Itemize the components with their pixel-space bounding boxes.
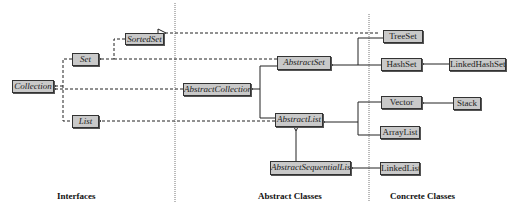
connector-lines bbox=[0, 0, 516, 212]
node-abstractcollection: AbstractCollection bbox=[183, 83, 251, 96]
node-linkedhashset: LinkedHashSet bbox=[449, 58, 506, 71]
node-abstractsequentiallist: AbstractSequentialList bbox=[270, 161, 351, 175]
node-linkedlist: LinkedList bbox=[380, 162, 420, 175]
node-set: Set bbox=[72, 53, 99, 66]
node-sortedset: SortedSet bbox=[125, 33, 164, 45]
node-arraylist: ArrayList bbox=[380, 126, 420, 139]
node-abstractset: AbstractSet bbox=[277, 56, 331, 70]
node-vector: Vector bbox=[381, 96, 422, 109]
label-interfaces: Interfaces bbox=[57, 191, 95, 201]
node-treeset: TreeSet bbox=[383, 30, 423, 43]
collection-hierarchy-diagram: Collection Set SortedSet List AbstractCo… bbox=[0, 0, 516, 212]
node-list: List bbox=[72, 115, 99, 128]
node-hashset: HashSet bbox=[381, 58, 422, 71]
node-stack: Stack bbox=[453, 97, 481, 110]
label-abstract-classes: Abstract Classes bbox=[258, 191, 322, 201]
node-abstractlist: AbstractList bbox=[275, 113, 323, 127]
label-concrete-classes: Concrete Classes bbox=[390, 191, 455, 201]
node-collection: Collection bbox=[12, 80, 54, 93]
